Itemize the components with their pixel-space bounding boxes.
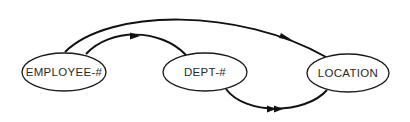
arrowhead-icon bbox=[130, 33, 140, 40]
node-label-employee: EMPLOYEE-# bbox=[26, 66, 103, 78]
node-label-location: LOCATION bbox=[318, 67, 378, 79]
arrowhead-icon bbox=[279, 33, 292, 40]
node-location: LOCATION bbox=[307, 54, 389, 92]
node-dept: DEPT-# bbox=[163, 53, 247, 91]
node-employee: EMPLOYEE-# bbox=[22, 53, 106, 91]
edge-dept-to-location bbox=[226, 89, 327, 113]
double-arrowhead-icon bbox=[274, 106, 283, 113]
edge-employee-to-dept bbox=[86, 33, 186, 56]
dependency-diagram: EMPLOYEE-# DEPT-# LOCATION bbox=[0, 0, 410, 122]
edge-employee-to-location bbox=[65, 20, 326, 57]
node-label-dept: DEPT-# bbox=[184, 66, 226, 78]
